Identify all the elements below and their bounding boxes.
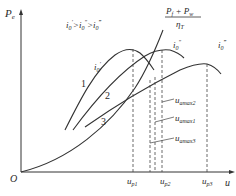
uamax2-label: uamax2	[175, 95, 196, 106]
up1-label: up1	[127, 176, 138, 187]
uamax1-label: uamax1	[175, 113, 196, 124]
y-axis-label: Pe	[4, 7, 15, 21]
uamax2-leader	[162, 99, 174, 102]
gear-label-3: i0‴	[218, 39, 227, 51]
gear-label-1: i0′	[94, 61, 102, 73]
curve-number-2: 2	[105, 90, 110, 101]
origin-label: O	[10, 173, 17, 184]
uamax3-label: uamax3	[175, 133, 196, 144]
y-axis-arrow-icon	[19, 9, 23, 15]
up3-label: up3	[202, 176, 213, 187]
power-balance-diagram: Pe O u i0′>i0″>i0‴ Pf + Pw ηT i0′ i0″ i0…	[0, 0, 236, 196]
uamax1-leader	[155, 117, 174, 122]
resistance-power-curve	[21, 30, 163, 172]
gear-label-2: i0″	[173, 39, 182, 51]
power-curve-gear-2	[73, 50, 184, 130]
resistance-numerator: Pf + Pw	[165, 6, 193, 17]
resistance-denominator: ηT	[176, 19, 184, 30]
up2-label: up2	[160, 176, 171, 187]
condition-text: i0′>i0″>i0‴	[66, 19, 102, 31]
x-axis-arrow-icon	[229, 170, 235, 174]
curve-number-3: 3	[101, 116, 106, 127]
curve-number-1: 1	[81, 78, 86, 89]
x-axis-label: u	[225, 177, 230, 188]
